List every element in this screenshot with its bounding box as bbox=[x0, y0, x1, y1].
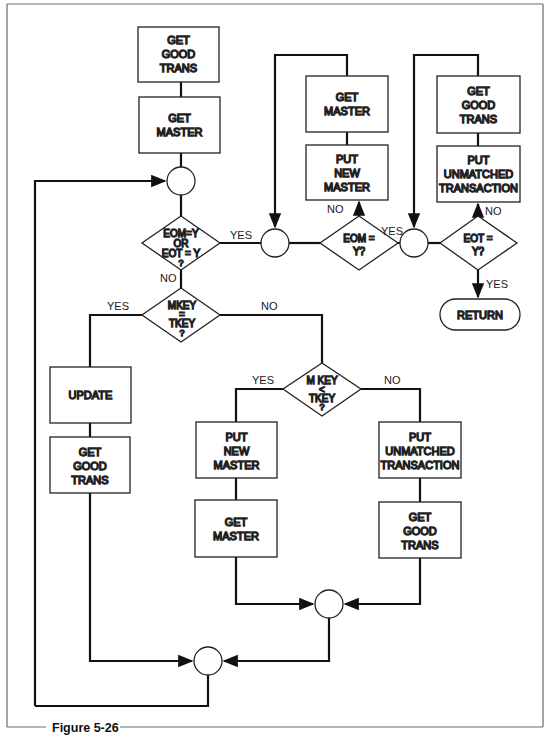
svg-text:Y?: Y? bbox=[472, 246, 485, 257]
svg-text:EOT =: EOT = bbox=[464, 233, 493, 244]
svg-text:GET: GET bbox=[336, 91, 359, 103]
flowchart-figure: Figure 5-26 bbox=[0, 0, 548, 740]
svg-text:TRANS: TRANS bbox=[160, 62, 197, 74]
svg-text:MASTER: MASTER bbox=[214, 459, 260, 471]
process-get-good-trans-1: GET GOOD TRANS bbox=[138, 27, 219, 82]
svg-text:RETURN: RETURN bbox=[457, 309, 503, 321]
junction-circle-4 bbox=[315, 590, 343, 618]
svg-text:MASTER: MASTER bbox=[213, 530, 259, 542]
label-mkey-lt-no: NO bbox=[384, 374, 401, 386]
terminal-return: RETURN bbox=[440, 299, 520, 330]
svg-text:TRANSACTION: TRANSACTION bbox=[439, 182, 518, 194]
svg-text:PUT: PUT bbox=[468, 154, 490, 166]
svg-text:GOOD: GOOD bbox=[462, 99, 496, 111]
process-put-new-master-1: PUT NEW MASTER bbox=[306, 145, 388, 200]
svg-text:TRANS: TRANS bbox=[460, 113, 497, 125]
label-eot-no: NO bbox=[485, 205, 502, 217]
svg-text:Y?: Y? bbox=[353, 246, 366, 257]
svg-text:PUT: PUT bbox=[226, 431, 248, 443]
svg-text:GET: GET bbox=[79, 446, 102, 458]
decision-mkey-less-than-tkey: M KEY < TKEY ? bbox=[283, 363, 361, 416]
junction-circle-5 bbox=[194, 647, 222, 675]
label-mkey-eq-yes: YES bbox=[107, 300, 129, 312]
process-get-good-trans-2: GET GOOD TRANS bbox=[437, 76, 520, 133]
svg-text:UNMATCHED: UNMATCHED bbox=[385, 445, 455, 457]
figure-caption: Figure 5-26 bbox=[52, 721, 119, 735]
svg-text:GET: GET bbox=[168, 112, 191, 124]
svg-text:MASTER: MASTER bbox=[324, 181, 370, 193]
svg-text:NEW: NEW bbox=[224, 445, 250, 457]
label-eom-yes: YES bbox=[381, 225, 403, 237]
svg-text:GOOD: GOOD bbox=[162, 48, 196, 60]
label-mkey-lt-yes: YES bbox=[252, 374, 274, 386]
svg-text:GET: GET bbox=[225, 516, 248, 528]
svg-text:NEW: NEW bbox=[334, 167, 360, 179]
svg-text:MASTER: MASTER bbox=[157, 126, 203, 138]
svg-text:?: ? bbox=[179, 328, 184, 338]
svg-text:PUT: PUT bbox=[409, 431, 431, 443]
junction-circle-3 bbox=[400, 229, 428, 257]
process-put-new-master-2: PUT NEW MASTER bbox=[196, 422, 277, 478]
process-get-master-3: GET MASTER bbox=[195, 500, 277, 557]
label-mkey-eq-no: NO bbox=[261, 300, 278, 312]
svg-text:UPDATE: UPDATE bbox=[69, 389, 113, 401]
label-eot-yes: YES bbox=[486, 278, 508, 290]
process-put-unmatched-2: PUT UNMATCHED TRANSACTION bbox=[379, 422, 461, 478]
process-update: UPDATE bbox=[50, 367, 131, 423]
svg-text:GET: GET bbox=[467, 85, 490, 97]
process-put-unmatched-1: PUT UNMATCHED TRANSACTION bbox=[437, 146, 520, 202]
process-get-good-trans-3: GET GOOD TRANS bbox=[50, 437, 130, 493]
decision-eom-or-eot: EOM=Y OR EOT = Y ? bbox=[142, 216, 220, 270]
process-get-good-trans-4: GET GOOD TRANS bbox=[379, 502, 461, 558]
svg-text:GOOD: GOOD bbox=[73, 460, 107, 472]
svg-text:?: ? bbox=[178, 258, 183, 268]
svg-text:PUT: PUT bbox=[336, 153, 358, 165]
decision-mkey-equals-tkey: MKEY = TKEY ? bbox=[142, 288, 220, 342]
process-get-master-1: GET MASTER bbox=[139, 97, 220, 153]
svg-text:TRANS: TRANS bbox=[71, 474, 108, 486]
svg-text:GOOD: GOOD bbox=[403, 525, 437, 537]
label-eom-or-eot-yes: YES bbox=[230, 229, 252, 241]
svg-text:GET: GET bbox=[409, 511, 432, 523]
decision-eot: EOT = Y? bbox=[440, 216, 517, 270]
label-eom-no: NO bbox=[327, 203, 344, 215]
svg-text:TRANS: TRANS bbox=[401, 539, 438, 551]
svg-text:UNMATCHED: UNMATCHED bbox=[444, 168, 514, 180]
label-eom-or-eot-no: NO bbox=[160, 272, 177, 284]
process-get-master-2: GET MASTER bbox=[306, 76, 388, 132]
junction-circle-2 bbox=[261, 229, 289, 257]
junction-circle-1 bbox=[167, 167, 195, 195]
svg-text:EOM =: EOM = bbox=[343, 233, 375, 244]
svg-text:TRANSACTION: TRANSACTION bbox=[381, 459, 460, 471]
svg-text:MASTER: MASTER bbox=[324, 105, 370, 117]
svg-text:?: ? bbox=[319, 402, 324, 412]
svg-text:GET: GET bbox=[167, 34, 190, 46]
